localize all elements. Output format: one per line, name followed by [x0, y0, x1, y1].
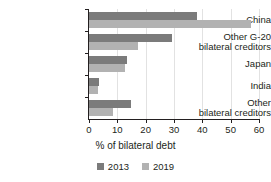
- bars-container: [89, 9, 259, 119]
- x-tick-mark: [174, 119, 175, 123]
- bar-2019: [89, 86, 98, 94]
- bar-2013: [89, 34, 172, 42]
- bar-2019: [89, 42, 138, 50]
- x-tick-mark: [202, 119, 203, 123]
- x-tick-mark: [231, 119, 232, 123]
- x-tick-mark: [89, 119, 90, 123]
- legend-swatch-2019: [142, 163, 149, 170]
- x-tick-mark: [146, 119, 147, 123]
- x-tick-mark: [259, 119, 260, 123]
- legend-swatch-2013: [97, 163, 104, 170]
- x-tick-label: 20: [134, 124, 158, 135]
- bilateral-debt-bar-chart: ChinaOther G-20 bilateral creditorsJapan…: [0, 0, 271, 182]
- legend-label-2019: 2019: [153, 161, 174, 172]
- bar-2019: [89, 108, 113, 116]
- legend-entry-2019: 2019: [142, 161, 174, 172]
- x-axis-title: % of bilateral debt: [0, 140, 271, 151]
- x-tick-label: 0: [77, 124, 101, 135]
- x-tick-label: 30: [162, 124, 186, 135]
- bar-2013: [89, 56, 127, 64]
- legend-entry-2013: 2013: [97, 161, 129, 172]
- bar-2013: [89, 12, 197, 20]
- chart-legend: 2013 2019: [0, 161, 271, 172]
- x-tick-label: 40: [190, 124, 214, 135]
- bar-2019: [89, 64, 125, 72]
- x-tick-mark: [117, 119, 118, 123]
- bar-2013: [89, 78, 99, 86]
- x-tick-label: 50: [219, 124, 243, 135]
- legend-label-2013: 2013: [108, 161, 129, 172]
- bar-2013: [89, 100, 131, 108]
- x-tick-label: 60: [247, 124, 271, 135]
- x-tick-label: 10: [105, 124, 129, 135]
- bar-2019: [89, 20, 251, 28]
